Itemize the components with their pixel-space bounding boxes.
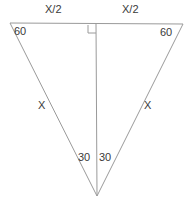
geometry-diagram: X/2 X/2 60 60 X X 30 30 [0,0,192,206]
label-angle-apex-right: 30 [99,151,111,163]
right-side-line [97,24,183,196]
label-side-right: X [144,99,151,111]
left-side-line [10,23,97,196]
label-angle-top-left: 60 [14,25,26,37]
label-side-left: X [38,99,45,111]
label-angle-top-right: 60 [160,26,172,38]
label-angle-apex-left: 30 [78,151,90,163]
label-top-right-segment: X/2 [122,3,139,15]
base-line [10,23,183,24]
right-angle-marker-icon [88,25,96,33]
altitude-line [96,24,97,196]
label-top-left-segment: X/2 [45,3,62,15]
